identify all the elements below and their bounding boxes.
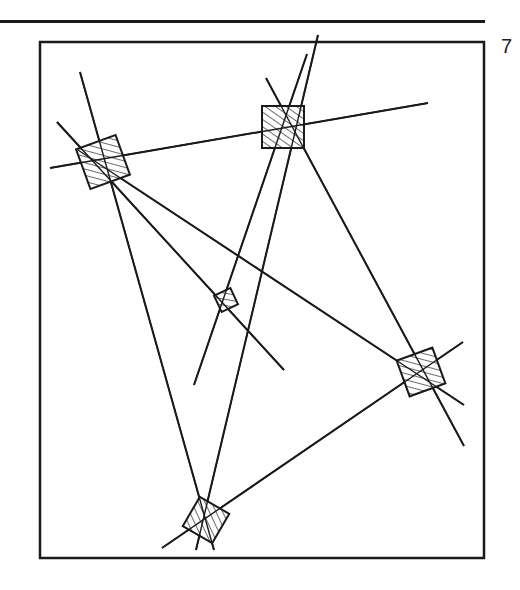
connection-line-overlay	[78, 150, 464, 405]
connection-line-overlay	[162, 342, 463, 548]
connection-line-overlay	[194, 54, 307, 385]
station-nodes	[50, 35, 464, 550]
network-diagram	[0, 0, 520, 590]
connection-line-overlay	[266, 78, 464, 446]
node-top-middle	[262, 106, 304, 148]
connection-line-overlay	[50, 103, 428, 168]
